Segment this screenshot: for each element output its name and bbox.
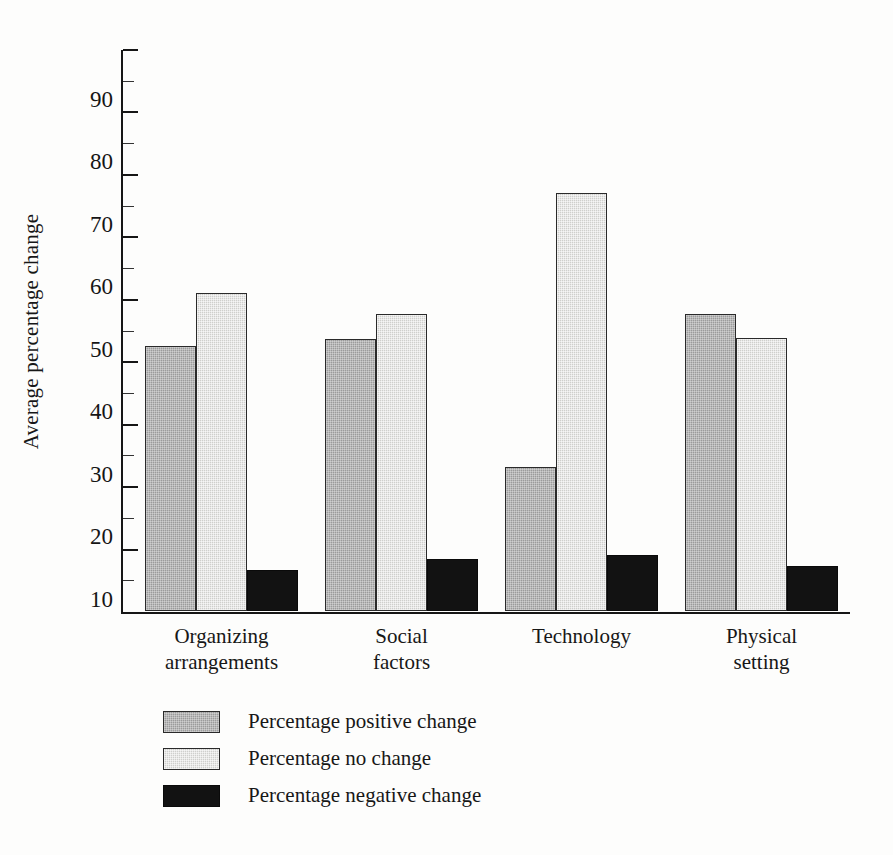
bar (376, 314, 427, 611)
y-minor-tick-65 (123, 206, 134, 207)
y-tick-label-70: 70 (59, 213, 113, 236)
y-minor-tick-35 (123, 393, 134, 394)
y-tick-80 (123, 111, 138, 113)
bar (505, 467, 556, 611)
y-minor-tick-15 (123, 518, 134, 519)
y-minor-tick-45 (123, 331, 134, 332)
bar (325, 339, 376, 611)
y-axis-title: Average percentage change (14, 50, 48, 613)
y-tick-30 (123, 424, 138, 426)
y-tick-label-90: 90 (59, 88, 113, 111)
legend-item: Percentage negative change (163, 779, 723, 812)
y-tick-60 (123, 236, 138, 238)
y-tick-70 (123, 174, 138, 176)
bar (247, 570, 298, 611)
bar (787, 566, 838, 611)
bar (736, 338, 787, 612)
plot-area (121, 50, 850, 613)
bar (196, 293, 247, 611)
chart-figure: Average percentage change 90807060504030… (0, 0, 893, 855)
bar (145, 346, 196, 611)
y-tick-10 (123, 549, 138, 551)
y-tick-50 (123, 299, 138, 301)
x-axis-line (121, 612, 850, 614)
legend-swatch-negative (163, 785, 220, 807)
y-minor-tick-5 (123, 580, 134, 581)
y-tick-40 (123, 361, 138, 363)
bar (685, 314, 736, 611)
y-minor-tick-75 (123, 143, 134, 144)
legend-item: Percentage no change (163, 742, 723, 775)
y-tick-label-20: 20 (59, 525, 113, 548)
y-minor-tick-55 (123, 268, 134, 269)
y-axis-tick-labels: 908070605040302010 (53, 50, 113, 613)
category-label-line: factors (295, 650, 508, 676)
bar (427, 559, 478, 611)
y-tick-label-80: 80 (59, 150, 113, 173)
y-minor-tick-85 (123, 81, 134, 82)
y-tick-label-60: 60 (59, 275, 113, 298)
category-label-line: setting (655, 650, 868, 676)
y-tick-label-50: 50 (59, 338, 113, 361)
y-tick-label-10: 10 (59, 588, 113, 611)
x-axis-category-labels: OrganizingarrangementsSocialfactorsTechn… (121, 624, 850, 694)
legend-item: Percentage positive change (163, 705, 723, 738)
bar (607, 555, 658, 611)
category-label-line: Physical (655, 624, 868, 650)
legend-label: Percentage positive change (248, 709, 477, 734)
y-minor-tick-25 (123, 455, 134, 456)
bar (556, 193, 607, 611)
legend-swatch-positive (163, 711, 220, 733)
legend-label: Percentage negative change (248, 783, 481, 808)
y-tick-label-30: 30 (59, 463, 113, 486)
legend-label: Percentage no change (248, 746, 431, 771)
y-tick-20 (123, 486, 138, 488)
y-axis-line (121, 50, 123, 614)
y-tick-label-40: 40 (59, 400, 113, 423)
legend-swatch-nochange (163, 748, 220, 770)
chart-legend: Percentage positive changePercentage no … (163, 705, 723, 816)
y-tick-90 (123, 49, 138, 51)
category-label: Physicalsetting (655, 624, 868, 675)
